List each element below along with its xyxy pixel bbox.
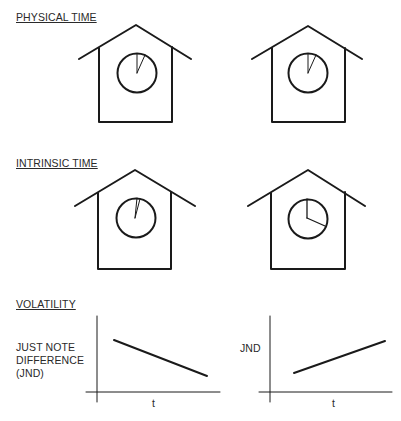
house-walls [271,192,345,269]
clock-hand [307,218,325,226]
clock-face-icon [289,54,328,93]
roof [75,170,195,206]
clock-hand [308,55,316,73]
increasing-trend-line [294,341,385,373]
clock-face-icon [289,199,328,239]
house-walls [99,47,172,122]
clock-face-icon [118,54,157,93]
clock-house-physical-left [79,25,191,122]
decreasing-trend-line [114,340,207,376]
diagram-canvas [0,0,401,421]
clock-face-icon [117,198,156,238]
left-volatility-chart [86,316,220,402]
house-walls [98,192,171,269]
clock-hand [137,55,145,73]
clock-house-intrinsic-left [75,170,195,269]
clock-house-physical-right [252,26,362,122]
right-volatility-chart [259,316,392,402]
clock-house-intrinsic-right [248,170,365,269]
